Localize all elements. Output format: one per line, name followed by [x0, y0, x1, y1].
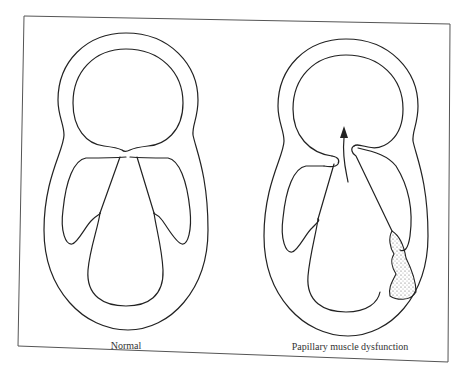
- caption-dysfunction: Papillary muscle dysfunction: [292, 341, 409, 352]
- dysfunction-heart: [264, 39, 428, 336]
- diagram: Normal Papillary muscle dysfunction: [0, 0, 452, 382]
- arrow-head-icon: [340, 126, 348, 138]
- normal-heart: [44, 33, 208, 330]
- caption-normal: Normal: [111, 340, 142, 351]
- stippled-scar: [389, 231, 416, 299]
